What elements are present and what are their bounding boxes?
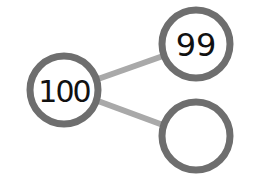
whole-value: 100 [38,74,90,109]
node-part-top: 99 [162,10,230,78]
part-top-value: 99 [176,26,217,64]
number-bond-diagram: 100 99 [0,0,258,181]
part-bottom-circle[interactable] [162,102,230,170]
edge-whole-to-bottom [98,101,163,125]
node-part-bottom[interactable] [162,102,230,170]
node-whole: 100 [30,56,98,124]
edge-whole-to-top [98,56,163,79]
